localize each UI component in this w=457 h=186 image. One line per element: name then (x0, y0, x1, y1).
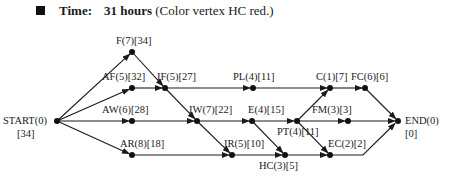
vertex-end (395, 118, 401, 124)
vertex-label-e: E(4)[15] (248, 104, 284, 116)
vertex-ir (229, 152, 235, 158)
vertex-label-iw: IW(7)[22] (189, 104, 232, 116)
vertex-label-aw: AW(6)[28] (102, 104, 148, 116)
vertex-start (54, 118, 60, 124)
vertex-fm (345, 118, 351, 124)
vertex-label-fm: FM(3)[3] (312, 104, 352, 116)
nodes: START(0)[34]F(7)[34]AF(5)[32]AW(6)[28]AR… (3, 35, 439, 172)
vertex-label-af: AF(5)[32] (102, 71, 145, 83)
vertex-pt (294, 118, 300, 124)
vertex-label-end: END(0) (405, 115, 439, 127)
vertex-label-ec: EC(2)[2] (328, 138, 366, 150)
vertex-pl (250, 85, 256, 91)
vertex-label-if: IF(5)[27] (157, 71, 196, 83)
vertex-label-f: F(7)[34] (116, 35, 152, 47)
vertex-label-c: C(1)[7] (316, 71, 348, 83)
vertex-label-pl: PL(4)[11] (233, 71, 275, 83)
vertex-ec (327, 152, 333, 158)
vertex-if (162, 85, 168, 91)
pert-graph: START(0)[34]F(7)[34]AF(5)[32]AW(6)[28]AR… (0, 0, 457, 186)
vertex-hc (282, 152, 288, 158)
vertex-sublabel-end: [0] (405, 128, 417, 139)
vertex-sublabel-start: [34] (17, 128, 35, 139)
vertex-fc (362, 85, 368, 91)
vertex-aw (129, 118, 135, 124)
vertex-c (327, 85, 333, 91)
vertex-ar (129, 152, 135, 158)
vertex-label-start: START(0) (3, 115, 48, 127)
edge-START-AR (57, 121, 129, 154)
vertex-af (129, 85, 135, 91)
vertex-label-ir: IR(5)[10] (224, 138, 264, 150)
vertex-f (129, 49, 135, 55)
vertex-label-ar: AR(8)[18] (120, 138, 164, 150)
vertex-label-hc: HC(3)[5] (259, 160, 298, 172)
vertex-iw (194, 118, 200, 124)
edge-FC-END (365, 88, 396, 119)
vertex-label-fc: FC(6)[6] (351, 71, 388, 83)
vertex-e (249, 118, 255, 124)
vertex-label-pt: PT(4)[11] (277, 126, 319, 138)
